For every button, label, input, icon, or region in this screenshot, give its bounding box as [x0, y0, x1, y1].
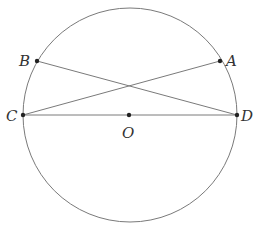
- point-C: [21, 113, 25, 117]
- point-A: [218, 59, 222, 63]
- point-D: [235, 113, 239, 117]
- label-O: O: [122, 124, 134, 142]
- label-D: D: [240, 107, 253, 125]
- circle-diagram: A B C D O: [0, 0, 255, 241]
- label-A: A: [224, 52, 237, 70]
- label-C: C: [6, 107, 18, 125]
- chord-BD: [37, 61, 237, 115]
- label-B: B: [18, 52, 30, 70]
- point-B: [35, 59, 39, 63]
- chord-CA: [23, 61, 220, 115]
- point-O-center: [127, 113, 131, 117]
